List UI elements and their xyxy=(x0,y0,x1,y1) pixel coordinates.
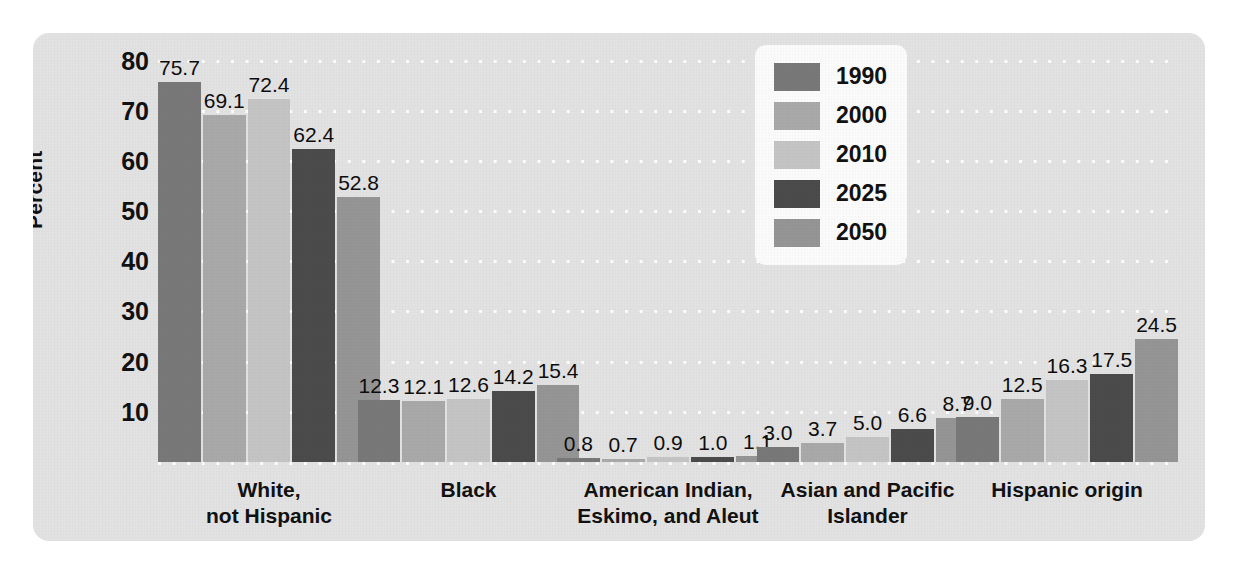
legend-swatch-icon xyxy=(774,141,820,169)
bar-value-label: 72.4 xyxy=(249,74,290,95)
bar-slot: 12.5 xyxy=(1001,53,1044,462)
bar-group: 9.012.516.317.524.5 xyxy=(956,53,1178,462)
legend-swatch-icon xyxy=(774,102,820,130)
bar[interactable] xyxy=(402,401,445,462)
bar-slot: 0.8 xyxy=(557,53,600,462)
bar-group: 12.312.112.614.215.4 xyxy=(358,53,580,462)
category-label-line: not Hispanic xyxy=(136,503,402,529)
bar-value-label: 16.3 xyxy=(1047,355,1088,376)
legend-label: 2000 xyxy=(836,104,887,127)
legend-label: 2025 xyxy=(836,182,887,205)
y-axis-title: Percent xyxy=(33,151,47,229)
bar-value-label: 0.8 xyxy=(564,433,593,454)
legend-item-2050[interactable]: 2050 xyxy=(755,213,907,252)
category-label-line: Islander xyxy=(735,503,1001,529)
bar[interactable] xyxy=(801,443,844,462)
legend[interactable]: 19902000201020252050 xyxy=(755,45,907,265)
bar-value-label: 1.0 xyxy=(698,432,727,453)
bar-value-label: 17.5 xyxy=(1091,349,1132,370)
bar-value-label: 0.9 xyxy=(653,432,682,453)
bar[interactable] xyxy=(647,457,690,462)
bar-group: 75.769.172.462.452.8 xyxy=(158,53,380,462)
bar-slot: 9.0 xyxy=(956,53,999,462)
bar-slot: 16.3 xyxy=(1046,53,1089,462)
category-label: Hispanic origin xyxy=(934,477,1200,503)
legend-label: 1990 xyxy=(836,65,887,88)
legend-swatch-icon xyxy=(774,63,820,91)
bar-group: 0.80.70.91.01.1 xyxy=(557,53,779,462)
y-tick-label: 40 xyxy=(97,249,149,274)
bar-slot: 0.7 xyxy=(602,53,645,462)
bar-slot: 0.9 xyxy=(647,53,690,462)
bar-value-label: 3.0 xyxy=(763,422,792,443)
bar-slot: 24.5 xyxy=(1135,53,1178,462)
bar[interactable] xyxy=(846,437,889,462)
legend-label: 2010 xyxy=(836,143,887,166)
y-tick-label: 10 xyxy=(97,399,149,424)
bar-value-label: 5.0 xyxy=(853,412,882,433)
y-tick-label: 30 xyxy=(97,299,149,324)
bar[interactable] xyxy=(1135,339,1178,462)
legend-item-1990[interactable]: 1990 xyxy=(755,57,907,96)
y-axis-ticks: 8070605040302010 xyxy=(85,53,149,462)
bar[interactable] xyxy=(158,82,201,462)
category-label-line: Hispanic origin xyxy=(934,477,1200,503)
bar-value-label: 12.5 xyxy=(1002,374,1043,395)
legend-item-2000[interactable]: 2000 xyxy=(755,96,907,135)
bar[interactable] xyxy=(292,149,335,462)
bar-value-label: 12.1 xyxy=(403,376,444,397)
legend-label: 2050 xyxy=(836,221,887,244)
bar-slot: 62.4 xyxy=(292,53,335,462)
y-tick-label: 60 xyxy=(97,148,149,173)
bar-value-label: 75.7 xyxy=(159,57,200,78)
bar-value-label: 14.2 xyxy=(493,366,534,387)
bar[interactable] xyxy=(956,417,999,462)
bar[interactable] xyxy=(248,99,291,462)
bar-value-label: 9.0 xyxy=(963,392,992,413)
bar-value-label: 12.3 xyxy=(358,375,399,396)
bar[interactable] xyxy=(757,447,800,462)
y-tick-label: 80 xyxy=(97,48,149,73)
bar[interactable] xyxy=(203,115,246,462)
legend-swatch-icon xyxy=(774,219,820,247)
legend-swatch-icon xyxy=(774,180,820,208)
y-tick-label: 50 xyxy=(97,199,149,224)
chart-panel: Percent 8070605040302010 75.769.172.462.… xyxy=(33,33,1205,541)
bar[interactable] xyxy=(1090,374,1133,462)
y-tick-label: 20 xyxy=(97,349,149,374)
legend-item-2010[interactable]: 2010 xyxy=(755,135,907,174)
bar[interactable] xyxy=(891,429,934,462)
bar[interactable] xyxy=(1001,399,1044,462)
bar[interactable] xyxy=(492,391,535,462)
bar[interactable] xyxy=(1046,380,1089,462)
legend-item-2025[interactable]: 2025 xyxy=(755,174,907,213)
bar-value-label: 0.7 xyxy=(609,434,638,455)
bar-value-label: 6.6 xyxy=(898,404,927,425)
bar-value-label: 24.5 xyxy=(1136,314,1177,335)
bar[interactable] xyxy=(602,459,645,463)
axis-baseline xyxy=(158,462,1178,465)
bar-value-label: 62.4 xyxy=(293,124,334,145)
bar-slot: 69.1 xyxy=(203,53,246,462)
bar-slot: 12.3 xyxy=(358,53,401,462)
plot-area: 75.769.172.462.452.812.312.112.614.215.4… xyxy=(158,53,1178,462)
bar-value-label: 3.7 xyxy=(808,418,837,439)
bar-slot: 72.4 xyxy=(248,53,291,462)
bar[interactable] xyxy=(358,400,401,462)
bar-value-label: 69.1 xyxy=(204,90,245,111)
bar-slot: 12.1 xyxy=(402,53,445,462)
bar-slot: 14.2 xyxy=(492,53,535,462)
bar-slot: 12.6 xyxy=(447,53,490,462)
bar-value-label: 12.6 xyxy=(448,374,489,395)
bar[interactable] xyxy=(557,458,600,462)
bar[interactable] xyxy=(447,399,490,462)
bar[interactable] xyxy=(691,457,734,462)
bar-slot: 17.5 xyxy=(1090,53,1133,462)
bar-slot: 1.0 xyxy=(691,53,734,462)
y-tick-label: 70 xyxy=(97,98,149,123)
bar-slot: 75.7 xyxy=(158,53,201,462)
